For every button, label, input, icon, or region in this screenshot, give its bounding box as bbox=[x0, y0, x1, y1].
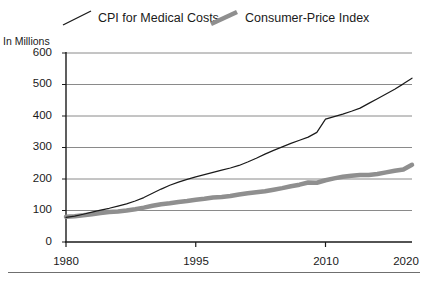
x-tick-2010: 2010 bbox=[313, 255, 339, 268]
x-tick-1995: 1995 bbox=[183, 255, 209, 268]
chart-plot-area bbox=[0, 0, 428, 286]
series-line-consumer-price-index bbox=[66, 165, 412, 217]
x-tick-2020: 2020 bbox=[393, 255, 419, 268]
x-tick-1980: 1980 bbox=[53, 255, 79, 268]
chart-figure: CPI for Medical Costs Consumer-Price Ind… bbox=[0, 0, 428, 286]
footer-divider bbox=[8, 272, 420, 273]
